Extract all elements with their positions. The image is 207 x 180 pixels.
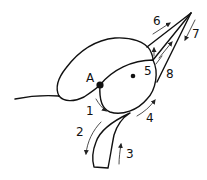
- label-8: 8: [166, 67, 174, 81]
- tail-process: [93, 113, 130, 168]
- label-1: 1: [86, 104, 94, 118]
- inner-dot: [131, 74, 136, 79]
- label-6: 6: [153, 14, 161, 28]
- point-a-dot: [96, 81, 103, 88]
- label-4: 4: [146, 111, 154, 125]
- label-5: 5: [144, 64, 152, 78]
- point-a-label: A: [86, 71, 95, 85]
- upper-lobe: [57, 38, 153, 96]
- left-stem-line: [15, 96, 59, 99]
- arrow-3: [119, 144, 121, 164]
- flow-diagram: A 1 2 3 4 5 6 7 8: [0, 0, 207, 180]
- label-3: 3: [126, 147, 134, 161]
- label-2: 2: [76, 125, 84, 139]
- fan-line-lower: [157, 13, 191, 82]
- upper-lobe-lower-edge: [59, 85, 100, 101]
- arrow-5c: [156, 56, 162, 64]
- label-7: 7: [192, 27, 200, 41]
